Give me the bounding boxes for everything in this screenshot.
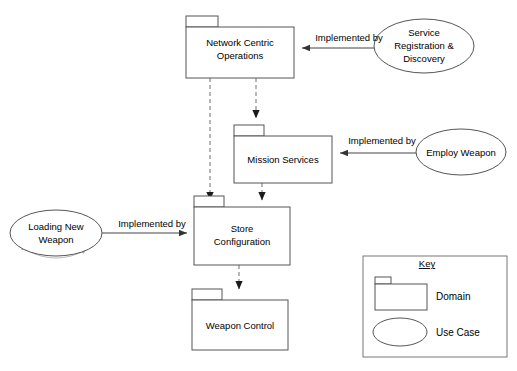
usecase-label-employ-weapon-line1: Employ Weapon [426,147,496,158]
package-mission-services[interactable]: Mission Services [234,125,332,183]
usecase-label-loading-new-weapon-line1: Loading New [28,221,84,232]
edge-label-implemented-by-service-registration: Implemented by [315,32,383,43]
package-weapon-control[interactable]: Weapon Control [192,289,288,350]
package-label-network-centric-operations-line2: Operations [217,50,264,61]
edge-label-implemented-by-loading-new-weapon: Implemented by [118,218,186,229]
diagram-svg: Network Centric Operations Mission Servi… [0,0,517,371]
legend-label-domain: Domain [436,291,470,302]
package-label-weapon-control-line1: Weapon Control [206,320,274,331]
package-store-configuration[interactable]: Store Configuration [194,196,290,265]
package-network-centric-operations[interactable]: Network Centric Operations [186,16,294,78]
package-label-store-configuration-line2: Configuration [214,236,271,247]
diagram-canvas: Network Centric Operations Mission Servi… [0,0,517,371]
usecase-loading-new-weapon[interactable]: Loading New Weapon [10,210,102,256]
legend-label-use-case: Use Case [436,327,480,338]
usecase-employ-weapon[interactable]: Employ Weapon [416,129,506,175]
usecase-label-service-registration-line2: Registration & [394,40,454,51]
package-label-network-centric-operations-line1: Network Centric [206,37,274,48]
package-label-mission-services-line1: Mission Services [247,154,319,165]
usecase-label-service-registration-line3: Discovery [403,53,445,64]
legend-key: Key Domain Use Case [363,256,507,357]
edge-label-implemented-by-employ-weapon: Implemented by [348,135,416,146]
usecase-service-registration-discovery[interactable]: Service Registration & Discovery [374,19,474,73]
package-label-store-configuration-line1: Store [231,223,254,234]
legend-title: Key [419,258,436,269]
usecase-label-service-registration-line1: Service [408,27,440,38]
usecase-label-loading-new-weapon-line2: Weapon [38,234,73,245]
